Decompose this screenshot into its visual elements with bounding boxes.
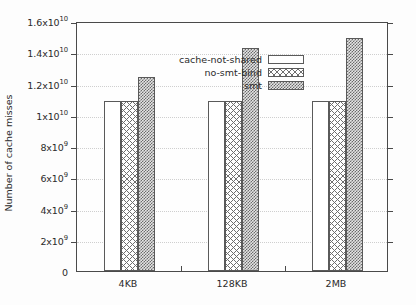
legend-label-cache-not-shared: cache-not-shared: [179, 54, 262, 65]
y-tick: [71, 117, 77, 118]
legend-label-smt: smt: [244, 80, 262, 91]
legend-item: smt: [179, 79, 304, 92]
bar-smt-4KB: [138, 77, 155, 271]
y-axis-tick-label: 1x1010: [2, 110, 68, 121]
y-axis-tick-label: 4x109: [2, 204, 68, 215]
y-tick: [71, 179, 77, 180]
legend-item: no-smt-bind: [179, 66, 304, 79]
bar-cache-not-shared-2MB: [312, 101, 329, 271]
y-tick-right: [387, 179, 393, 180]
x-axis-label-4KB: 4KB: [88, 278, 168, 289]
legend-swatch-smt: [268, 81, 304, 90]
y-tick: [71, 211, 77, 212]
legend-swatch-no-smt-bind: [268, 68, 304, 77]
y-axis-tick-label: 6x109: [2, 173, 68, 184]
y-tick-right: [387, 86, 393, 87]
y-tick-right: [387, 23, 393, 24]
y-axis-tick-label: 8x109: [2, 142, 68, 153]
y-axis-tick-label: 0: [2, 267, 68, 278]
y-tick-right: [387, 211, 393, 212]
y-axis-tick-label: 1.6x1010: [2, 17, 68, 28]
x-axis-label-128KB: 128KB: [192, 278, 272, 289]
x-tick: [285, 266, 286, 271]
legend-label-no-smt-bind: no-smt-bind: [204, 67, 262, 78]
y-tick: [71, 148, 77, 149]
y-tick-right: [387, 117, 393, 118]
chart-figure: Number of cache misses cache-not-shared …: [0, 0, 416, 305]
x-axis-label-2MB: 2MB: [296, 278, 376, 289]
y-tick-right: [387, 54, 393, 55]
bar-no-smt-bind-4KB: [121, 101, 138, 271]
legend-item: cache-not-shared: [179, 53, 304, 66]
y-tick: [71, 242, 77, 243]
y-tick: [71, 54, 77, 55]
y-tick: [71, 23, 77, 24]
bar-cache-not-shared-128KB: [208, 101, 225, 271]
y-axis-tick-label: 1.2x1010: [2, 79, 68, 90]
bar-no-smt-bind-128KB: [225, 101, 242, 271]
plot-area: cache-not-shared no-smt-bind smt: [76, 22, 388, 272]
y-tick-right: [387, 242, 393, 243]
x-tick: [181, 266, 182, 271]
legend-swatch-cache-not-shared: [268, 55, 304, 64]
y-tick: [71, 86, 77, 87]
y-axis-tick-label: 2x109: [2, 235, 68, 246]
bar-no-smt-bind-2MB: [329, 101, 346, 271]
chart-legend: cache-not-shared no-smt-bind smt: [173, 49, 310, 96]
y-axis-tick-label: 1.4x1010: [2, 48, 68, 59]
bar-cache-not-shared-4KB: [104, 101, 121, 271]
y-tick-right: [387, 148, 393, 149]
bar-smt-2MB: [346, 38, 363, 271]
